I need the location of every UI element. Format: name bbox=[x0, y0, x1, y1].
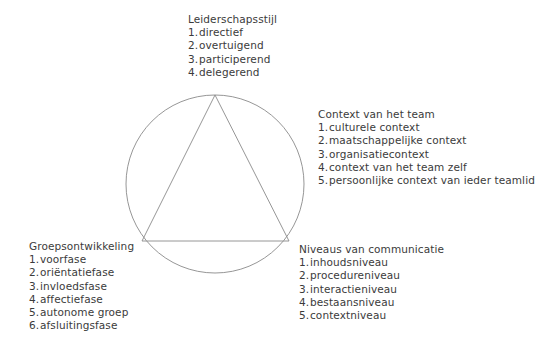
list-item: 2. procedureniveau bbox=[299, 269, 444, 282]
list-item-number: 3. bbox=[188, 53, 199, 66]
list-item: 1. directief bbox=[188, 26, 277, 39]
list-item-label: delegerend bbox=[199, 66, 260, 79]
list-item-label: affectiefase bbox=[40, 293, 103, 306]
block-list-groepsontwikkeling: 1. voorfase 2. oriëntatiefase 3. invloed… bbox=[29, 253, 134, 332]
list-item-label: overtuigend bbox=[199, 39, 264, 52]
list-item-number: 5. bbox=[299, 309, 310, 322]
block-list-niveaus-van-communicatie: 1. inhoudsniveau 2. procedureniveau 3. i… bbox=[299, 256, 444, 322]
list-item-label: afsluitingsfase bbox=[40, 319, 117, 332]
block-title-context-van-het-team: Context van het team bbox=[318, 108, 535, 121]
list-item-label: persoonlijke context van ieder teamlid bbox=[329, 174, 535, 187]
list-item-number: 2. bbox=[318, 134, 329, 147]
label-block-leiderschapsstijl: Leiderschapsstijl 1. directief 2. overtu… bbox=[188, 13, 277, 79]
block-title-niveaus-van-communicatie: Niveaus van communicatie bbox=[299, 243, 444, 256]
list-item-number: 4. bbox=[299, 296, 310, 309]
list-item-label: oriëntatiefase bbox=[40, 266, 114, 279]
list-item-label: participerend bbox=[199, 53, 270, 66]
list-item: 6. afsluitingsfase bbox=[29, 319, 134, 332]
list-item-label: invloedsfase bbox=[40, 280, 107, 293]
list-item-number: 1. bbox=[29, 253, 40, 266]
list-item-number: 3. bbox=[318, 148, 329, 161]
list-item-number: 5. bbox=[318, 174, 329, 187]
list-item-number: 2. bbox=[188, 39, 199, 52]
block-list-context-van-het-team: 1. culturele context 2. maatschappelijke… bbox=[318, 121, 535, 187]
list-item-number: 1. bbox=[188, 26, 199, 39]
list-item-number: 6. bbox=[29, 319, 40, 332]
list-item-number: 1. bbox=[299, 256, 310, 269]
list-item: 3. participerend bbox=[188, 53, 277, 66]
list-item-label: autonome groep bbox=[40, 306, 128, 319]
list-item: 4. affectiefase bbox=[29, 293, 134, 306]
block-list-leiderschapsstijl: 1. directief 2. overtuigend 3. participe… bbox=[188, 26, 277, 79]
list-item-label: interactieniveau bbox=[310, 283, 397, 296]
list-item: 5. contextniveau bbox=[299, 309, 444, 322]
list-item-number: 3. bbox=[29, 280, 40, 293]
list-item-number: 4. bbox=[188, 66, 199, 79]
list-item: 4. delegerend bbox=[188, 66, 277, 79]
list-item: 4. context van het team zelf bbox=[318, 161, 535, 174]
list-item: 3. organisatiecontext bbox=[318, 148, 535, 161]
list-item-label: context van het team zelf bbox=[329, 161, 467, 174]
label-block-niveaus-van-communicatie: Niveaus van communicatie 1. inhoudsnivea… bbox=[299, 243, 444, 322]
list-item-label: inhoudsniveau bbox=[310, 256, 388, 269]
list-item-number: 4. bbox=[29, 293, 40, 306]
list-item: 2. maatschappelijke context bbox=[318, 134, 535, 147]
list-item: 1. inhoudsniveau bbox=[299, 256, 444, 269]
list-item-number: 5. bbox=[29, 306, 40, 319]
list-item-number: 1. bbox=[318, 121, 329, 134]
diagram-canvas: Leiderschapsstijl 1. directief 2. overtu… bbox=[0, 0, 540, 349]
label-block-context-van-het-team: Context van het team 1. culturele contex… bbox=[318, 108, 535, 187]
label-block-groepsontwikkeling: Groepsontwikkeling 1. voorfase 2. oriënt… bbox=[29, 240, 134, 332]
list-item: 1. voorfase bbox=[29, 253, 134, 266]
list-item: 4. bestaansniveau bbox=[299, 296, 444, 309]
list-item-label: contextniveau bbox=[310, 309, 386, 322]
list-item: 2. oriëntatiefase bbox=[29, 266, 134, 279]
list-item-number: 3. bbox=[299, 283, 310, 296]
list-item: 3. interactieniveau bbox=[299, 283, 444, 296]
block-title-leiderschapsstijl: Leiderschapsstijl bbox=[188, 13, 277, 26]
list-item: 3. invloedsfase bbox=[29, 280, 134, 293]
list-item-label: bestaansniveau bbox=[310, 296, 394, 309]
list-item-label: organisatiecontext bbox=[329, 148, 429, 161]
list-item-number: 2. bbox=[299, 269, 310, 282]
list-item: 1. culturele context bbox=[318, 121, 535, 134]
list-item-label: directief bbox=[199, 26, 243, 39]
list-item-number: 4. bbox=[318, 161, 329, 174]
circle-shape bbox=[126, 95, 304, 273]
list-item-label: culturele context bbox=[329, 121, 420, 134]
list-item-number: 2. bbox=[29, 266, 40, 279]
block-title-groepsontwikkeling: Groepsontwikkeling bbox=[29, 240, 134, 253]
list-item-label: voorfase bbox=[40, 253, 86, 266]
list-item: 2. overtuigend bbox=[188, 39, 277, 52]
list-item: 5. autonome groep bbox=[29, 306, 134, 319]
list-item-label: procedureniveau bbox=[310, 269, 400, 282]
list-item: 5. persoonlijke context van ieder teamli… bbox=[318, 174, 535, 187]
triangle-shape bbox=[142, 95, 289, 241]
list-item-label: maatschappelijke context bbox=[329, 134, 467, 147]
